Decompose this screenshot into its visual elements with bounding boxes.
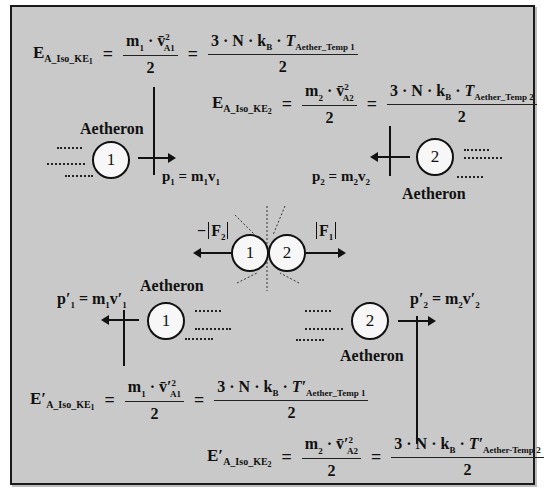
- motion-trail: [296, 339, 324, 341]
- equals-sign: =: [371, 447, 381, 468]
- aetheron-particle-after-2: 2: [351, 302, 389, 340]
- momentum-p1-prime: p′1 = m1v′1: [57, 290, 127, 310]
- motion-trail: [464, 157, 502, 159]
- collision-particle-1: 1: [231, 234, 269, 272]
- force-label-f1: F1: [316, 222, 336, 242]
- aetheron-label-after-2: Aetheron: [340, 347, 404, 365]
- equation-ke2: EA_Iso_KE2 = m2 · v̄2A2 2 = 3 · N · kB ·…: [212, 82, 537, 127]
- aetheron-particle-after-1: 1: [147, 302, 185, 340]
- vertical-divider-4: [416, 316, 418, 444]
- ke1-mass-velocity-fraction: m1 · v̄2A1 2: [123, 32, 178, 77]
- motion-trail: [47, 163, 85, 165]
- ke2-prime-lhs: E′A_Iso_KE2: [207, 446, 272, 469]
- equation-ke2-prime: E′A_Iso_KE2 = m2 · v̄′2A2 2 = 3 · N · kB…: [207, 435, 544, 480]
- ke1-prime-lhs: E′A_Iso_KE1: [30, 389, 95, 412]
- arrow-left-icon: [370, 152, 410, 162]
- momentum-p2-prime: p′2 = m2v′2: [410, 290, 480, 310]
- force-arrow-right-icon: [306, 248, 348, 258]
- equals-sign: =: [367, 94, 377, 115]
- equals-sign: =: [194, 390, 204, 411]
- motion-trail: [57, 147, 82, 149]
- equation-ke1-prime: E′A_Iso_KE1 = m1 · v̄′2A1 2 = 3 · N · kB…: [30, 378, 368, 423]
- aetheron-label-1: Aetheron: [80, 120, 144, 138]
- equals-sign: =: [282, 447, 292, 468]
- aetheron-label-2: Aetheron: [402, 185, 466, 203]
- momentum-p2: p2 = m2v2: [312, 168, 370, 187]
- equals-sign: =: [105, 390, 115, 411]
- force-label-f2: −F2: [197, 222, 228, 242]
- force-arrow-left-icon: [193, 248, 233, 258]
- motion-trail: [305, 328, 343, 330]
- ke1-temperature-fraction: 3 · N · kB · TAether_Temp 1 2: [208, 32, 358, 76]
- motion-trail: [195, 328, 231, 330]
- vertical-divider-2: [389, 126, 391, 176]
- motion-trail: [65, 175, 93, 177]
- ke2-prime-temperature-fraction: 3 · N · kB · T′Aether-Temp 2 2: [391, 435, 543, 479]
- arrow-right-icon: [138, 153, 178, 163]
- collision-particle-2: 2: [268, 234, 306, 272]
- ke1-prime-temperature-fraction: 3 · N · kB · T′Aether_Temp 1 2: [214, 378, 368, 422]
- ke2-prime-mass-velocity-fraction: m2 · v̄′2A2 2: [302, 435, 361, 480]
- ke2-mass-velocity-fraction: m2 · v̄2A2 2: [302, 82, 357, 127]
- motion-trail: [195, 310, 221, 312]
- motion-trail: [457, 176, 483, 178]
- ke1-lhs: EA_Iso_KE1: [33, 43, 93, 66]
- equals-sign: =: [282, 94, 292, 115]
- motion-trail: [305, 310, 331, 312]
- ke2-temperature-fraction: 3 · N · kB · TAether_Temp 2 2: [387, 82, 537, 126]
- ke2-lhs: EA_Iso_KE2: [212, 93, 272, 116]
- motion-trail: [464, 149, 489, 151]
- aetheron-label-after-1: Aetheron: [140, 277, 204, 295]
- aetheron-particle-1: 1: [92, 141, 130, 179]
- aetheron-particle-2: 2: [416, 138, 454, 176]
- arrow-left-icon: [101, 315, 141, 325]
- momentum-p1: p1 = m1v1: [162, 168, 220, 187]
- equals-sign: =: [103, 44, 113, 65]
- ke1-prime-mass-velocity-fraction: m1 · v̄′2A1 2: [125, 378, 184, 423]
- arrow-right-icon: [398, 316, 438, 326]
- equals-sign: =: [188, 44, 198, 65]
- equation-ke1: EA_Iso_KE1 = m1 · v̄2A1 2 = 3 · N · kB ·…: [33, 32, 358, 77]
- motion-trail: [185, 338, 213, 340]
